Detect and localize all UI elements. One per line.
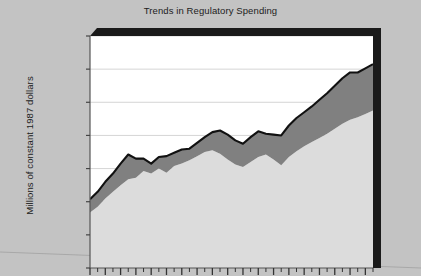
- x-axis-ticks: [90, 268, 373, 275]
- frame-right-bevel: [373, 28, 381, 268]
- chart-screenshot: Trends in Regulatory Spending Millions o…: [0, 0, 421, 276]
- frame-top-bevel: [90, 28, 378, 36]
- plot-area: [0, 0, 421, 276]
